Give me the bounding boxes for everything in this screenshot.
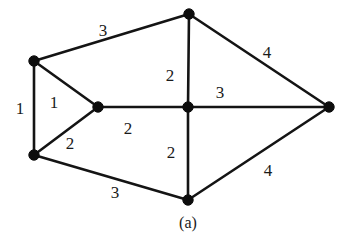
edges-group <box>34 14 329 200</box>
edge-weight-e-c-r: 3 <box>216 84 225 101</box>
graph-node-top-left <box>29 56 39 66</box>
graph-edge-e-tc-r <box>189 14 329 107</box>
graph-node-center <box>183 102 193 112</box>
graph-edge-e-tc-c <box>188 14 189 107</box>
graph-node-middle-left <box>93 102 103 112</box>
graph-node-bottom-left <box>29 150 39 160</box>
graph-node-right <box>324 102 334 112</box>
edge-weight-e-bc-r: 4 <box>264 162 273 179</box>
graph-figure: 11234223234 (a) <box>0 0 350 239</box>
graph-node-bottom-center <box>183 195 193 205</box>
edge-weight-e-ml-c: 2 <box>124 120 133 137</box>
edge-weight-e-tl-bl: 1 <box>16 100 25 117</box>
graph-node-top-center <box>184 9 194 19</box>
graph-edge-e-tl-ml <box>34 61 98 107</box>
graph-edge-e-bc-r <box>188 107 329 200</box>
edge-weight-e-c-bc: 2 <box>167 144 176 161</box>
edge-weight-e-tl-tc: 3 <box>99 22 108 39</box>
edge-weight-e-bl-ml: 2 <box>66 135 75 152</box>
edge-weight-e-tc-r: 4 <box>263 44 272 61</box>
graph-canvas <box>0 0 350 239</box>
edge-weight-e-tc-c: 2 <box>166 67 175 84</box>
edge-weight-e-bl-bc: 3 <box>111 184 120 201</box>
edge-weight-e-tl-ml: 1 <box>50 94 59 111</box>
graph-edge-e-tl-tc <box>34 14 189 61</box>
figure-caption: (a) <box>179 215 197 231</box>
